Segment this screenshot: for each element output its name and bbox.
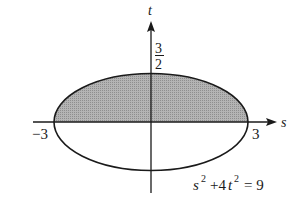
eq-s: s bbox=[193, 177, 199, 193]
eq-t-exp: 2 bbox=[234, 173, 239, 184]
t-axis-label: t bbox=[148, 3, 153, 18]
s-tick-3: 3 bbox=[252, 126, 260, 142]
t-tick-numerator: 3 bbox=[155, 41, 162, 56]
eq-plus-4: +4 bbox=[210, 177, 226, 193]
s-tick-neg3: −3 bbox=[32, 126, 48, 142]
eq-t: t bbox=[228, 177, 233, 193]
eq-s-exp: 2 bbox=[201, 173, 206, 184]
s-axis-label: s bbox=[281, 115, 287, 130]
t-tick-denominator: 2 bbox=[155, 57, 162, 72]
equation-label: s 2 +4 t 2 = 9 bbox=[193, 173, 264, 193]
ellipse-diagram: t s −3 3 3 2 s 2 +4 t 2 = 9 bbox=[0, 0, 304, 203]
eq-rhs: = 9 bbox=[244, 177, 264, 193]
